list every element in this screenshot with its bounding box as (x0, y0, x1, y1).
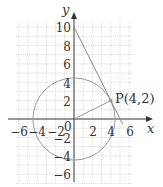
y-axis-arrow-icon (71, 12, 77, 19)
x-tick-label: 4 (107, 125, 115, 139)
y-tick-label: 2 (63, 95, 71, 109)
point-p (109, 99, 113, 103)
y-axis (71, 12, 77, 182)
x-tick-labels: −6 −4 −2 2 4 6 (10, 125, 134, 139)
y-tick-label: −4 (53, 150, 71, 164)
y-tick-label: 8 (63, 40, 71, 54)
radius-segment (74, 101, 111, 119)
y-tick-label: 10 (56, 21, 71, 35)
x-tick-label: −4 (28, 125, 46, 139)
y-tick-label: 6 (63, 58, 71, 72)
x-axis (8, 116, 153, 122)
x-tick-label: 6 (126, 125, 134, 139)
y-tick-label: −2 (53, 132, 71, 146)
x-axis-label: x (147, 121, 155, 136)
x-tick-label: −6 (10, 125, 28, 139)
point-label: P(4,2) (115, 91, 155, 106)
y-tick-label: −6 (53, 168, 71, 182)
y-tick-label: 4 (63, 77, 71, 91)
coordinate-diagram: y x 0 P(4,2) −6 −4 −2 2 4 6 10 8 6 4 2 −… (0, 0, 163, 187)
x-tick-label: 2 (89, 125, 97, 139)
y-axis-label: y (61, 2, 70, 17)
